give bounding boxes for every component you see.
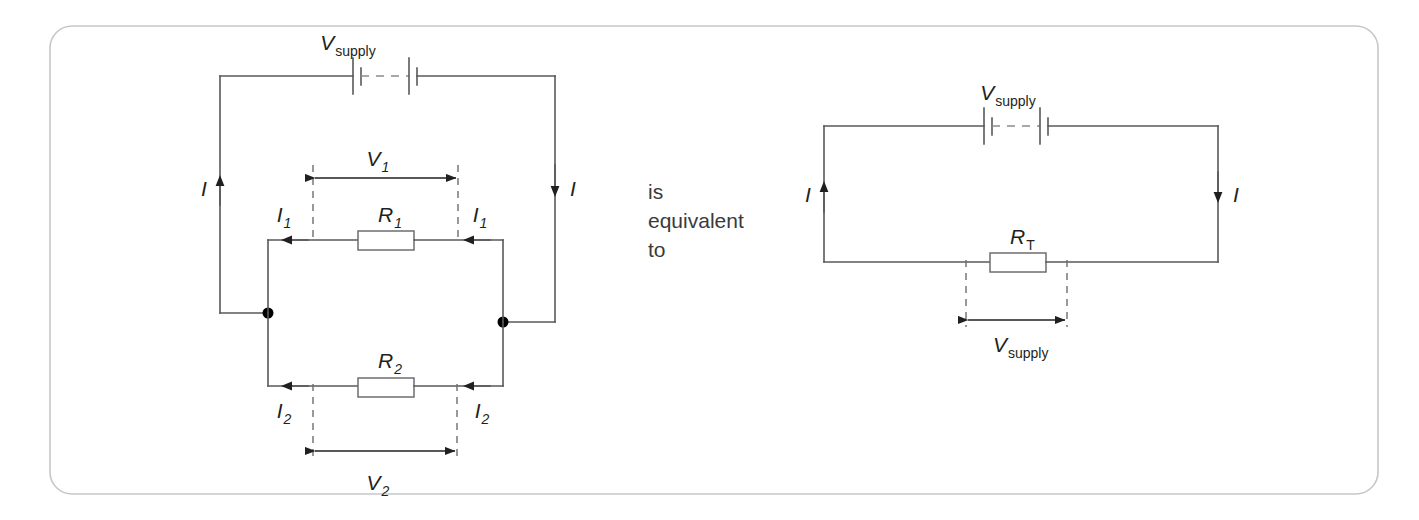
rt-voltage-label: Vsupply xyxy=(993,333,1048,361)
current-label-right-I: I xyxy=(570,177,576,200)
current-label-I2-left: I2 xyxy=(277,399,292,427)
caption-line-3: to xyxy=(648,238,666,261)
resistor-R1 xyxy=(358,231,414,250)
current-label-I2-right: I2 xyxy=(475,399,490,427)
right-supply-label: Vsupply xyxy=(980,81,1035,109)
circuit-diagram-svg: Vsupply I I xyxy=(0,0,1419,520)
current-label-I1-right: I1 xyxy=(473,203,488,231)
right-current-label-left-I: I xyxy=(805,183,811,206)
current-label-I1-left: I1 xyxy=(277,203,292,231)
caption-line-1: is xyxy=(648,180,663,203)
caption-line-2: equivalent xyxy=(648,209,744,232)
circuit-figure: Vsupply I I xyxy=(0,0,1419,520)
resistor-label-RT: RT xyxy=(1010,225,1035,253)
panel-border xyxy=(50,26,1378,494)
left-circuit: Vsupply I I xyxy=(201,31,576,499)
current-label-left-I: I xyxy=(201,177,207,200)
equivalence-caption: is equivalent to xyxy=(648,180,744,261)
voltage-label-V1: V1 xyxy=(367,147,390,175)
resistor-label-R1: R1 xyxy=(378,203,402,231)
resistor-R2 xyxy=(358,378,414,397)
left-supply-label: Vsupply xyxy=(320,31,375,59)
right-circuit: Vsupply I I RT Vsupply xyxy=(805,81,1239,361)
right-current-label-right-I: I xyxy=(1233,183,1239,206)
resistor-RT xyxy=(990,253,1046,272)
resistor-label-R2: R2 xyxy=(378,349,402,377)
